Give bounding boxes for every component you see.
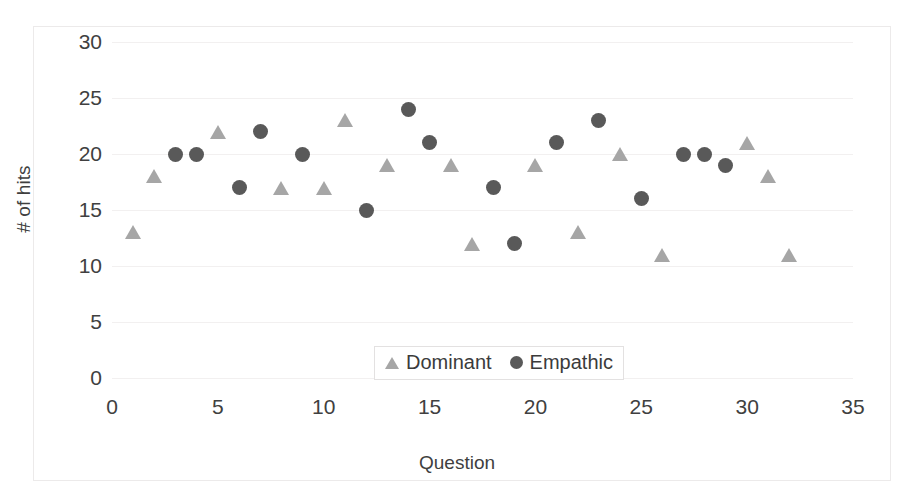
data-point-empathic-6-17 xyxy=(232,180,247,195)
legend-label: Empathic xyxy=(530,351,613,374)
data-point-empathic-28-20 xyxy=(697,147,712,162)
x-tick-label-25: 25 xyxy=(611,396,671,417)
y-axis-title: # of hits xyxy=(13,139,35,259)
legend-entry-empathic[interactable]: Empathic xyxy=(510,351,613,374)
gridline-y-15 xyxy=(112,210,853,211)
data-point-dominant-10-17 xyxy=(316,181,332,195)
x-tick-label-10: 10 xyxy=(294,396,354,417)
legend-label: Dominant xyxy=(406,351,492,374)
x-axis-tick-labels: 05101520253035 xyxy=(112,396,872,424)
triangle-marker-icon xyxy=(385,357,399,369)
data-point-empathic-25-16 xyxy=(634,191,649,206)
gridline-y-25 xyxy=(112,98,853,99)
data-point-empathic-4-20 xyxy=(189,147,204,162)
gridline-y-30 xyxy=(112,42,853,43)
y-tick-label-30: 30 xyxy=(58,31,102,52)
data-point-dominant-8-17 xyxy=(273,181,289,195)
x-tick-label-15: 15 xyxy=(400,396,460,417)
data-point-dominant-11-23 xyxy=(337,113,353,127)
data-point-empathic-15-21 xyxy=(422,135,437,150)
data-point-empathic-12-15 xyxy=(359,203,374,218)
data-point-dominant-2-18 xyxy=(146,169,162,183)
data-point-empathic-21-21 xyxy=(549,135,564,150)
y-tick-label-20: 20 xyxy=(58,143,102,164)
y-tick-label-0: 0 xyxy=(58,367,102,388)
chart-legend: DominantEmpathic xyxy=(374,346,624,380)
y-tick-label-10: 10 xyxy=(58,255,102,276)
data-point-dominant-13-19 xyxy=(379,158,395,172)
data-point-dominant-17-12 xyxy=(464,237,480,251)
data-point-empathic-27-20 xyxy=(676,147,691,162)
data-point-dominant-16-19 xyxy=(443,158,459,172)
data-point-empathic-3-20 xyxy=(168,147,183,162)
x-axis-title: Question xyxy=(0,452,914,474)
y-tick-label-5: 5 xyxy=(58,311,102,332)
circle-marker-icon xyxy=(510,356,523,369)
y-tick-label-15: 15 xyxy=(58,199,102,220)
data-point-dominant-31-18 xyxy=(760,169,776,183)
legend-entry-dominant[interactable]: Dominant xyxy=(385,351,492,374)
y-axis-tick-labels: 051015202530 xyxy=(46,0,102,420)
data-point-empathic-23-23 xyxy=(591,113,606,128)
gridline-y-20 xyxy=(112,154,853,155)
data-point-dominant-22-13 xyxy=(570,225,586,239)
data-point-empathic-9-20 xyxy=(295,147,310,162)
scatter-chart: # of hits Question 051015202530 05101520… xyxy=(0,0,914,504)
data-point-dominant-5-22 xyxy=(210,125,226,139)
data-point-dominant-20-19 xyxy=(527,158,543,172)
plot-area xyxy=(112,42,853,378)
data-point-dominant-1-13 xyxy=(125,225,141,239)
data-point-empathic-19-12 xyxy=(507,236,522,251)
data-point-dominant-24-20 xyxy=(612,147,628,161)
gridline-y-5 xyxy=(112,322,853,323)
x-tick-label-0: 0 xyxy=(82,396,142,417)
data-point-dominant-32-11 xyxy=(781,248,797,262)
data-point-dominant-26-11 xyxy=(654,248,670,262)
data-point-empathic-14-24 xyxy=(401,102,416,117)
data-point-empathic-29-19 xyxy=(718,158,733,173)
data-point-empathic-18-17 xyxy=(486,180,501,195)
x-tick-label-20: 20 xyxy=(505,396,565,417)
x-tick-label-35: 35 xyxy=(823,396,883,417)
gridline-y-10 xyxy=(112,266,853,267)
data-point-dominant-30-21 xyxy=(739,136,755,150)
data-point-empathic-7-22 xyxy=(253,124,268,139)
x-tick-label-5: 5 xyxy=(188,396,248,417)
y-tick-label-25: 25 xyxy=(58,87,102,108)
x-tick-label-30: 30 xyxy=(717,396,777,417)
